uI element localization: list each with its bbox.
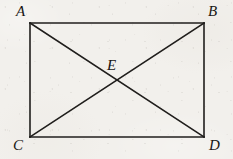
vertex-label-c: C <box>13 138 23 153</box>
vertex-label-d: D <box>209 138 220 153</box>
rectangle-diagram-svg <box>0 0 233 159</box>
vertex-label-e: E <box>107 58 116 73</box>
vertex-label-a: A <box>16 4 25 19</box>
vertex-label-b: B <box>208 4 217 19</box>
geometry-figure: A B C D E <box>0 0 233 159</box>
